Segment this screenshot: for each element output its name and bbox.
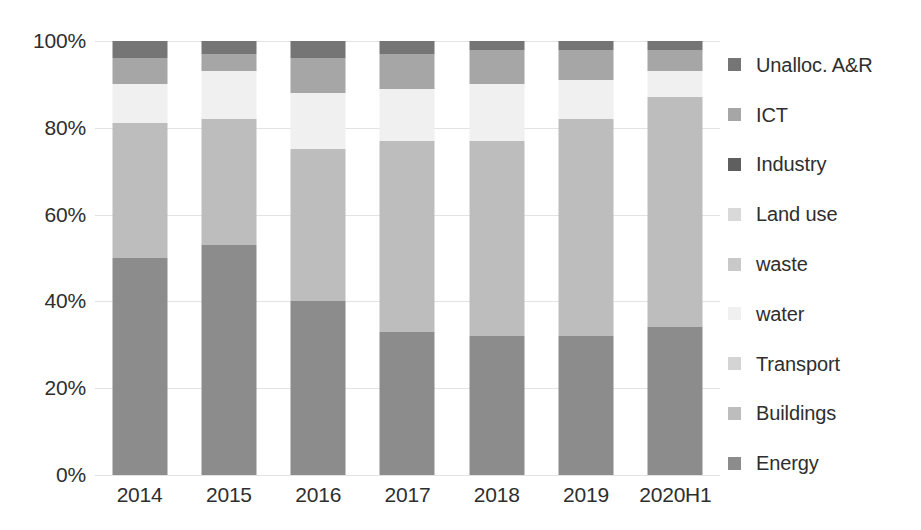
bar-segment-ict[interactable]	[201, 54, 256, 71]
bar-segment-energy[interactable]	[112, 258, 167, 475]
bar-segment-unalloc-a-r[interactable]	[380, 41, 435, 54]
bar-segment-water[interactable]	[559, 80, 614, 119]
legend-swatch-icon	[728, 58, 741, 71]
legend-item-buildings[interactable]: Buildings	[728, 389, 921, 439]
bar-segment-unalloc-a-r[interactable]	[469, 41, 524, 50]
y-axis-tick-label: 60%	[24, 204, 86, 225]
bar-segment-unalloc-a-r[interactable]	[648, 41, 703, 50]
legend-item-transport[interactable]: Transport	[728, 339, 921, 389]
x-axis-tick-label: 2019	[541, 483, 630, 517]
stacked-bar[interactable]	[291, 41, 346, 475]
bar-segment-ict[interactable]	[469, 50, 524, 85]
stacked-bar[interactable]	[559, 41, 614, 475]
bar-segment-energy[interactable]	[201, 245, 256, 475]
legend-swatch-icon	[728, 457, 741, 470]
bar-segment-ict[interactable]	[559, 50, 614, 80]
stacked-bar-chart: 0%20%40%60%80%100% 201420152016201720182…	[0, 0, 735, 530]
legend-item-label: Land use	[756, 203, 838, 225]
x-axis-tick-label: 2020H1	[631, 483, 720, 517]
bar-segment-energy[interactable]	[380, 332, 435, 475]
bar-segment-water[interactable]	[648, 71, 703, 97]
x-axis: 2014201520162017201820192020H1	[95, 483, 720, 517]
x-axis-tick-label: 2015	[184, 483, 273, 517]
gridline	[95, 475, 720, 476]
bar-segment-unalloc-a-r[interactable]	[559, 41, 614, 50]
legend-item-energy[interactable]: Energy	[728, 438, 921, 488]
x-axis-tick-label: 2017	[363, 483, 452, 517]
y-axis-tick-label: 20%	[24, 377, 86, 398]
bar-segment-unalloc-a-r[interactable]	[291, 41, 346, 58]
bar-group-2017[interactable]	[363, 41, 452, 475]
bar-group-2015[interactable]	[184, 41, 273, 475]
legend-item-water[interactable]: water	[728, 289, 921, 339]
bar-segment-unalloc-a-r[interactable]	[112, 41, 167, 58]
plot-area	[95, 41, 720, 475]
bar-segment-buildings[interactable]	[291, 149, 346, 301]
stacked-bar[interactable]	[469, 41, 524, 475]
y-axis-tick-label: 100%	[24, 30, 86, 51]
stacked-bar[interactable]	[648, 41, 703, 475]
legend-item-industry[interactable]: Industry	[728, 140, 921, 190]
legend-swatch-icon	[728, 108, 741, 121]
y-axis-tick-label: 40%	[24, 290, 86, 311]
legend-item-waste[interactable]: waste	[728, 239, 921, 289]
bar-segment-ict[interactable]	[380, 54, 435, 89]
legend-swatch-icon	[728, 307, 741, 320]
bar-segment-buildings[interactable]	[201, 119, 256, 245]
bar-group-2016[interactable]	[274, 41, 363, 475]
legend-swatch-icon	[728, 357, 741, 370]
legend-item-ict[interactable]: ICT	[728, 90, 921, 140]
x-axis-tick-label: 2016	[274, 483, 363, 517]
bar-segment-buildings[interactable]	[559, 119, 614, 336]
bar-segment-buildings[interactable]	[469, 141, 524, 336]
bar-group-2019[interactable]	[541, 41, 630, 475]
chart-legend: Unalloc. A&RICTIndustryLand usewastewate…	[728, 40, 921, 500]
x-axis-tick-label: 2014	[95, 483, 184, 517]
y-axis-tick-label: 80%	[24, 117, 86, 138]
stacked-bar[interactable]	[380, 41, 435, 475]
bar-group-2018[interactable]	[452, 41, 541, 475]
bar-segment-water[interactable]	[291, 93, 346, 149]
y-axis-tick-label: 0%	[24, 464, 86, 485]
bar-segment-energy[interactable]	[469, 336, 524, 475]
bar-segment-buildings[interactable]	[112, 123, 167, 258]
bar-segment-water[interactable]	[112, 84, 167, 123]
x-axis-tick-label: 2018	[452, 483, 541, 517]
legend-swatch-icon	[728, 407, 741, 420]
bar-segment-buildings[interactable]	[380, 141, 435, 332]
bar-group-2020H1[interactable]	[631, 41, 720, 475]
bar-segment-water[interactable]	[469, 84, 524, 140]
bar-segment-energy[interactable]	[291, 301, 346, 475]
bar-segment-water[interactable]	[201, 71, 256, 119]
legend-item-label: Unalloc. A&R	[756, 54, 873, 76]
legend-item-unalloc-a-r[interactable]: Unalloc. A&R	[728, 40, 921, 90]
legend-item-land-use[interactable]: Land use	[728, 189, 921, 239]
bar-segment-ict[interactable]	[291, 58, 346, 93]
legend-item-label: Industry	[756, 153, 826, 175]
bar-segment-buildings[interactable]	[648, 97, 703, 327]
legend-swatch-icon	[728, 208, 741, 221]
chart-page: 0%20%40%60%80%100% 201420152016201720182…	[0, 0, 921, 530]
bar-segment-unalloc-a-r[interactable]	[201, 41, 256, 54]
legend-item-label: Energy	[756, 452, 819, 474]
bar-segment-ict[interactable]	[112, 58, 167, 84]
legend-item-label: Transport	[756, 353, 840, 375]
bar-segment-energy[interactable]	[648, 327, 703, 475]
bar-segment-ict[interactable]	[648, 50, 703, 72]
stacked-bar[interactable]	[201, 41, 256, 475]
legend-item-label: ICT	[756, 104, 788, 126]
legend-swatch-icon	[728, 258, 741, 271]
legend-item-label: Buildings	[756, 402, 836, 424]
legend-item-label: water	[756, 303, 804, 325]
bar-segment-water[interactable]	[380, 89, 435, 141]
bar-segment-energy[interactable]	[559, 336, 614, 475]
legend-swatch-icon	[728, 158, 741, 171]
stacked-bar[interactable]	[112, 41, 167, 475]
bar-group-2014[interactable]	[95, 41, 184, 475]
legend-item-label: waste	[756, 253, 808, 275]
y-axis: 0%20%40%60%80%100%	[18, 0, 86, 530]
